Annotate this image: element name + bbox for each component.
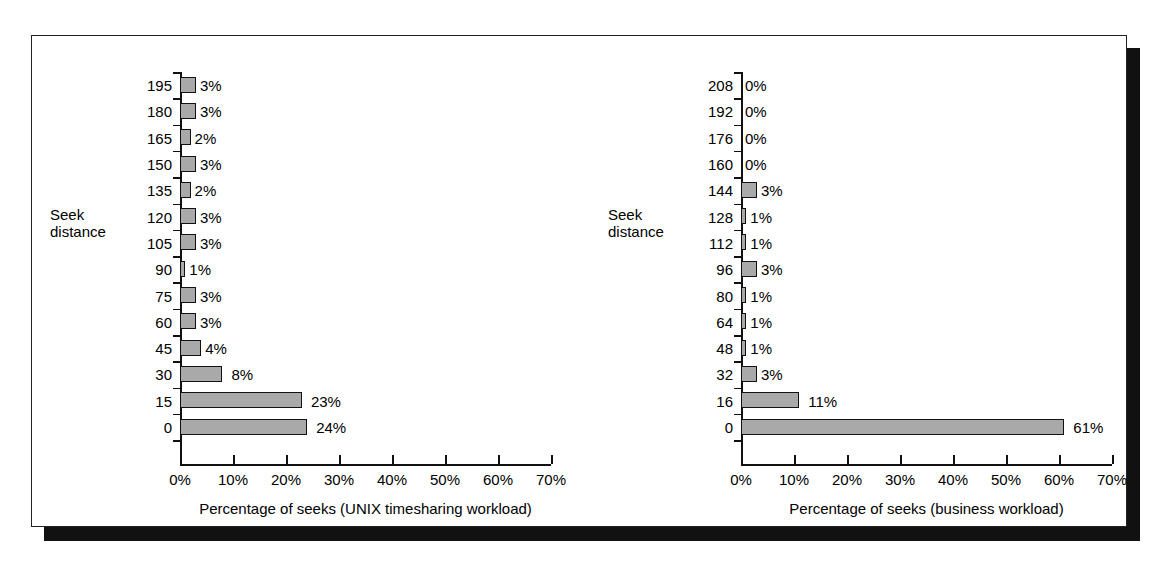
bar bbox=[180, 313, 196, 329]
category-axis-tick bbox=[734, 309, 741, 311]
category-tick-label: 176 bbox=[708, 130, 733, 147]
category-tick-label: 105 bbox=[147, 235, 172, 252]
category-axis-tick bbox=[734, 98, 741, 100]
category-tick-label: 75 bbox=[155, 288, 172, 305]
bar-value-label: 0% bbox=[745, 156, 767, 173]
category-axis-tick bbox=[734, 440, 741, 442]
bar bbox=[741, 340, 746, 356]
bar-value-label: 1% bbox=[750, 209, 772, 226]
category-axis-tick bbox=[734, 177, 741, 179]
category-axis-tick bbox=[173, 177, 180, 179]
category-axis-tick bbox=[734, 335, 741, 337]
bar bbox=[180, 208, 196, 224]
value-axis-tick-label: 70% bbox=[1097, 471, 1127, 488]
category-axis-tick bbox=[173, 282, 180, 284]
category-axis-tick bbox=[173, 335, 180, 337]
bar-value-label: 4% bbox=[205, 340, 227, 357]
category-tick-label: 32 bbox=[716, 366, 733, 383]
value-axis-tick-label: 60% bbox=[1044, 471, 1074, 488]
category-tick-label: 80 bbox=[716, 288, 733, 305]
category-tick-label: 135 bbox=[147, 182, 172, 199]
y-axis-label: Seekdistance bbox=[50, 206, 106, 240]
bar-value-label: 3% bbox=[200, 209, 222, 226]
bar bbox=[741, 313, 746, 329]
category-axis-tick bbox=[734, 256, 741, 258]
value-axis-tick bbox=[794, 455, 796, 464]
value-axis-tick-label: 50% bbox=[991, 471, 1021, 488]
bar bbox=[180, 366, 222, 382]
value-axis-tick bbox=[180, 455, 182, 464]
category-axis-tick bbox=[734, 204, 741, 206]
category-tick-label: 0 bbox=[164, 419, 172, 436]
bar-value-label: 24% bbox=[316, 419, 346, 436]
category-tick-label: 60 bbox=[155, 314, 172, 331]
category-tick-label: 0 bbox=[725, 419, 733, 436]
bar-value-label: 3% bbox=[200, 77, 222, 94]
category-tick-label: 48 bbox=[716, 340, 733, 357]
category-tick-label: 96 bbox=[716, 261, 733, 278]
bar-value-label: 3% bbox=[761, 366, 783, 383]
category-axis-tick bbox=[173, 125, 180, 127]
value-axis-tick bbox=[551, 455, 553, 464]
value-axis-tick-label: 30% bbox=[885, 471, 915, 488]
plot-area-unix: 024%1523%308%454%603%753%901%1053%1203%1… bbox=[32, 36, 580, 526]
bar-value-label: 3% bbox=[200, 103, 222, 120]
category-axis-tick bbox=[173, 72, 180, 74]
category-tick-label: 192 bbox=[708, 103, 733, 120]
value-axis-tick bbox=[392, 455, 394, 464]
value-axis-tick bbox=[445, 455, 447, 464]
value-axis-tick-label: 10% bbox=[779, 471, 809, 488]
category-axis-tick bbox=[173, 151, 180, 153]
category-tick-label: 90 bbox=[155, 261, 172, 278]
category-axis-tick bbox=[173, 230, 180, 232]
value-axis-tick-label: 70% bbox=[536, 471, 566, 488]
bar-value-label: 61% bbox=[1073, 419, 1103, 436]
category-tick-label: 15 bbox=[155, 393, 172, 410]
bar-value-label: 2% bbox=[195, 130, 217, 147]
category-axis-tick bbox=[173, 256, 180, 258]
bar bbox=[741, 287, 746, 303]
chart-panel-unix-timesharing: 024%1523%308%454%603%753%901%1053%1203%1… bbox=[32, 36, 580, 526]
bar bbox=[180, 234, 196, 250]
bar bbox=[180, 261, 185, 277]
y-axis-label-line: Seek bbox=[50, 206, 106, 223]
bar-value-label: 11% bbox=[808, 393, 837, 410]
plot-area-business: 061%1611%323%481%641%801%963%1121%1281%1… bbox=[580, 36, 1128, 526]
y-axis-label-line: Seek bbox=[608, 206, 664, 223]
value-axis-tick-label: 20% bbox=[271, 471, 301, 488]
bar-value-label: 2% bbox=[195, 182, 217, 199]
bar bbox=[741, 182, 757, 198]
bar bbox=[180, 156, 196, 172]
bar-value-label: 0% bbox=[745, 77, 767, 94]
category-axis-tick bbox=[173, 98, 180, 100]
value-axis-tick bbox=[1006, 455, 1008, 464]
bar-value-label: 1% bbox=[750, 288, 772, 305]
y-axis-label: Seekdistance bbox=[608, 206, 664, 240]
category-axis-tick bbox=[734, 414, 741, 416]
category-axis-tick bbox=[173, 414, 180, 416]
bar-value-label: 1% bbox=[750, 340, 772, 357]
value-axis-tick-label: 20% bbox=[832, 471, 862, 488]
value-axis-tick bbox=[1059, 455, 1061, 464]
chart-panel-business: 061%1611%323%481%641%801%963%1121%1281%1… bbox=[580, 36, 1128, 526]
bar-value-label: 3% bbox=[200, 235, 222, 252]
category-axis-tick bbox=[173, 388, 180, 390]
category-tick-label: 16 bbox=[716, 393, 733, 410]
value-axis-tick bbox=[847, 455, 849, 464]
value-axis-tick bbox=[498, 455, 500, 464]
value-axis-tick-label: 30% bbox=[324, 471, 354, 488]
category-axis-tick bbox=[734, 282, 741, 284]
category-tick-label: 64 bbox=[716, 314, 733, 331]
value-axis-tick-label: 0% bbox=[169, 471, 191, 488]
category-axis-tick bbox=[173, 309, 180, 311]
value-axis-tick bbox=[339, 455, 341, 464]
value-axis-tick bbox=[233, 455, 235, 464]
bar bbox=[180, 129, 191, 145]
category-tick-label: 165 bbox=[147, 130, 172, 147]
value-axis-tick-label: 40% bbox=[377, 471, 407, 488]
value-axis-tick-label: 40% bbox=[938, 471, 968, 488]
category-tick-label: 195 bbox=[147, 77, 172, 94]
value-axis-tick-label: 60% bbox=[483, 471, 513, 488]
category-axis-tick bbox=[173, 361, 180, 363]
x-axis-label: Percentage of seeks (business workload) bbox=[789, 500, 1063, 517]
